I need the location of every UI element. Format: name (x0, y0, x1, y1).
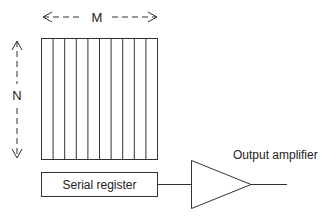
pixel-array (42, 39, 158, 160)
ccd-diagram: M N Serial register Output amplifier (0, 0, 324, 218)
serial-register-label: Serial register (62, 178, 136, 192)
height-label: N (12, 88, 21, 103)
width-label: M (92, 10, 103, 25)
output-amplifier-label: Output amplifier (233, 148, 318, 162)
output-amplifier-icon (192, 161, 252, 209)
